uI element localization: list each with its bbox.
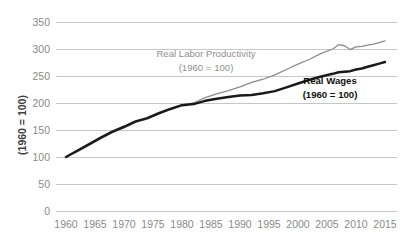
x-tick-label-1980: 1980: [170, 218, 194, 230]
x-tick-label-2015: 2015: [373, 218, 397, 230]
x-tick-label-1970: 1970: [112, 218, 136, 230]
x-tick-label-1965: 1965: [83, 218, 107, 230]
y-tick-label-200: 200: [32, 97, 50, 109]
annotation-wages-line1: Real Wages: [303, 75, 357, 86]
y-tick-label-150: 150: [32, 124, 50, 136]
annotation-productivity-line1: Real Labor Productivity: [156, 48, 255, 59]
y-tick-label-350: 350: [32, 16, 50, 28]
y-tick-label-100: 100: [32, 151, 50, 163]
x-tick-label-2000: 2000: [286, 218, 310, 230]
annotation-wages-line2: (1960 = 100): [303, 89, 358, 100]
chart-background: [0, 0, 410, 242]
y-tick-label-50: 50: [38, 178, 50, 190]
x-tick-label-1960: 1960: [54, 218, 78, 230]
x-tick-label-1985: 1985: [199, 218, 223, 230]
y-axis-title: (1960 = 100): [16, 95, 28, 155]
chart-container: 050100150200250300350 196019651970197519…: [0, 0, 410, 242]
x-tick-label-1995: 1995: [257, 218, 281, 230]
x-tick-label-2010: 2010: [344, 218, 368, 230]
x-tick-label-2005: 2005: [315, 218, 339, 230]
y-tick-label-250: 250: [32, 70, 50, 82]
line-chart: 050100150200250300350 196019651970197519…: [0, 0, 410, 242]
annotation-productivity-line2: (1960 = 100): [179, 62, 234, 73]
x-tick-label-1975: 1975: [141, 218, 165, 230]
y-tick-label-300: 300: [32, 43, 50, 55]
x-tick-label-1990: 1990: [228, 218, 252, 230]
y-tick-label-0: 0: [44, 205, 50, 217]
